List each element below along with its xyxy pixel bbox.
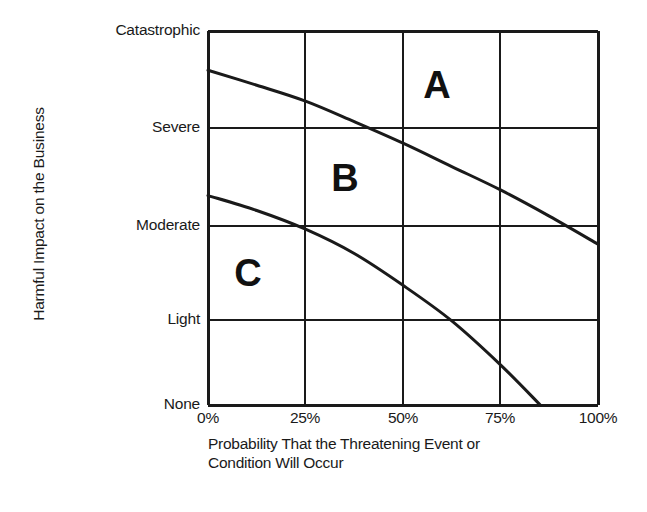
x-axis-caption-line-2: Condition Will Occur: [208, 453, 638, 472]
zone-label-b: B: [331, 159, 358, 197]
x-axis-caption-line-1: Probability That the Threatening Event o…: [208, 434, 638, 453]
x-axis-caption: Probability That the Threatening Event o…: [208, 434, 638, 472]
risk-matrix-figure: Harmful Impact on the Business Catastrop…: [0, 0, 647, 512]
zone-label-a: A: [423, 66, 450, 104]
zone-label-c: C: [234, 254, 261, 292]
